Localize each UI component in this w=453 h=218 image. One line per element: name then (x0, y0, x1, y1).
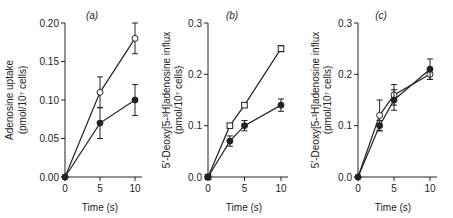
panel-c-ylabel-2: (pmol/10⁷ cells) (322, 66, 333, 135)
marker-filled-circle (97, 120, 103, 126)
panel-b: (b) 5′-Deoxy[5-³H]adenosine influx (pmol… (161, 10, 288, 213)
y-tick-label: 0.1 (338, 120, 352, 131)
marker-filled-circle (355, 174, 361, 180)
marker-filled-circle (132, 97, 138, 103)
panel-c-ylabel-1: 5′-Deoxy[5-³H]adenosine influx (310, 32, 321, 168)
panel-c-xlabel: Time (s) (375, 202, 411, 213)
panel-b-ylabel-2: (pmol/10⁷ cells) (173, 66, 184, 135)
x-tick-label: 5 (242, 183, 248, 194)
y-tick-label: 0.05 (40, 133, 60, 144)
panel-c-label: (c) (375, 10, 387, 21)
y-tick-label: 0.3 (338, 18, 352, 29)
panel-a-label: (a) (86, 10, 98, 21)
panel-a-ylabel-2: (pmol/10⁷ cells) (17, 66, 28, 135)
y-tick-label: 0.2 (338, 69, 352, 80)
marker-filled-circle (427, 66, 433, 72)
x-tick-label: 10 (424, 183, 436, 194)
panel-b-label: (b) (226, 10, 238, 21)
panel-b-yticks: 0.00.10.20.3 (188, 18, 208, 183)
panel-a: (a) Adenosine uptake (pmol/10⁷ cells) Ti… (4, 10, 142, 213)
x-tick-label: 5 (391, 183, 397, 194)
x-tick-label: 5 (97, 183, 103, 194)
panel-c-plot (355, 23, 437, 180)
panel-a-plot (62, 23, 142, 180)
marker-filled-circle (205, 174, 211, 180)
marker-open-square (278, 46, 284, 52)
panel-a-yticks: 0.000.050.100.150.20 (40, 18, 65, 183)
marker-filled-circle (391, 97, 397, 103)
panel-b-ylabel-1: 5′-Deoxy[5-³H]adenosine influx (161, 32, 172, 168)
figure: (a) Adenosine uptake (pmol/10⁷ cells) Ti… (0, 0, 453, 218)
y-tick-label: 0.1 (188, 120, 202, 131)
marker-filled-circle (242, 123, 248, 129)
panel-a-ylabel-1: Adenosine uptake (4, 60, 15, 141)
y-tick-label: 0.0 (338, 172, 352, 183)
x-tick-label: 0 (205, 183, 211, 194)
panel-c-xticks: 0510 (355, 177, 436, 194)
y-tick-label: 0.2 (188, 69, 202, 80)
y-tick-label: 0.3 (188, 18, 202, 29)
y-tick-label: 0.00 (40, 172, 60, 183)
y-tick-label: 0.10 (40, 95, 60, 106)
panel-a-xticks: 0510 (62, 177, 141, 194)
marker-open-square (227, 123, 233, 129)
panel-b-xlabel: Time (s) (226, 202, 262, 213)
marker-open-circle (377, 112, 383, 118)
x-tick-label: 10 (275, 183, 287, 194)
series-line (208, 105, 281, 177)
panel-c-yticks: 0.00.10.20.3 (338, 18, 358, 183)
y-tick-label: 0.0 (188, 172, 202, 183)
marker-filled-circle (278, 102, 284, 108)
marker-filled-circle (62, 174, 68, 180)
marker-filled-circle (377, 123, 383, 129)
panel-b-xticks: 0510 (205, 177, 287, 194)
marker-open-circle (132, 35, 138, 41)
marker-filled-circle (227, 138, 233, 144)
panel-c: (c) 5′-Deoxy[5-³H]adenosine influx (pmol… (310, 10, 437, 213)
marker-open-square (242, 102, 248, 108)
y-tick-label: 0.20 (40, 18, 60, 29)
series-line (208, 49, 281, 177)
y-tick-label: 0.15 (40, 56, 60, 67)
panel-a-xlabel: Time (s) (82, 202, 118, 213)
panel-b-plot (205, 23, 288, 180)
x-tick-label: 0 (355, 183, 361, 194)
marker-open-circle (97, 89, 103, 95)
x-tick-label: 0 (62, 183, 68, 194)
x-tick-label: 10 (129, 183, 141, 194)
